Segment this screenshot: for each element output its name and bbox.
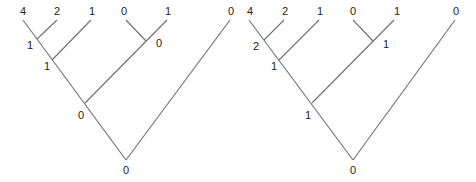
edge [249,20,353,160]
leaf-label: 0 [453,5,459,17]
leaf-label: 0 [350,5,356,17]
edge [126,20,146,41]
node-label: 1 [383,38,389,50]
node-label: 0 [78,109,84,121]
leaf-label: 1 [394,5,400,17]
edge [52,20,91,60]
edge [126,20,230,160]
leaf-label: 0 [228,5,234,17]
leaf-label: 2 [282,5,288,17]
leaf-label: 4 [247,5,253,17]
edge [353,20,455,160]
node-label: 0 [350,164,356,176]
node-label: 1 [44,60,50,72]
node-label: 1 [271,60,277,72]
leaf-label: 1 [165,5,171,17]
node-label: 2 [253,40,259,52]
edge [37,20,57,39]
node-label: 0 [156,37,162,49]
leaf-label: 0 [121,5,127,17]
edge [353,20,373,41]
edge [264,20,284,40]
edge [312,20,394,103]
leaf-label: 1 [89,5,95,17]
node-label: 1 [27,39,33,51]
left-tree: 4 2 1 0 1 0 1 1 0 0 0 [20,5,234,176]
leaf-label: 1 [317,5,323,17]
edge [279,20,319,60]
edge [23,20,126,160]
tree-diagrams: 4 2 1 0 1 0 1 1 0 0 0 4 2 1 0 1 0 2 1 1 … [0,0,476,182]
node-label: 1 [305,109,311,121]
right-tree: 4 2 1 0 1 0 2 1 1 1 0 [247,5,459,176]
edge [85,20,167,103]
leaf-label: 2 [54,5,60,17]
leaf-label: 4 [20,5,26,17]
node-label: 0 [123,164,129,176]
